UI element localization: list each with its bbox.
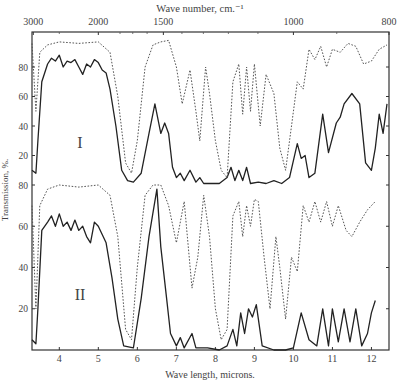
spectrum-curves — [32, 40, 387, 350]
y-tick-label: 80 — [19, 181, 29, 191]
x-tick-label: 5 — [96, 353, 101, 364]
y-tick-label: 40 — [19, 263, 29, 273]
y-tick-label: 40 — [19, 122, 29, 132]
y-tick-label: 20 — [19, 151, 29, 161]
x-tick-label: 7 — [174, 353, 179, 364]
top-tick-label: 1500 — [153, 16, 173, 27]
plot-border — [32, 32, 389, 350]
panel-label-II: II — [75, 286, 86, 303]
top-tick-label: 2000 — [88, 16, 108, 27]
x-tick-label: 10 — [288, 353, 298, 364]
x-tick-label: 8 — [213, 353, 218, 364]
x-tick-label: 9 — [252, 353, 257, 364]
x-axis-title: Wave length, microns. — [165, 369, 255, 380]
x-tick-label: 11 — [328, 353, 338, 364]
plot-frame — [32, 32, 389, 350]
y-axis-title: Transmission, %. — [0, 159, 10, 221]
x-tick-label: 6 — [135, 353, 140, 364]
top-axis-title: Wave number, cm.⁻¹ — [156, 3, 243, 14]
y-tick-label: 20 — [19, 304, 29, 314]
y-axis-transmission: 2040608020406080 — [19, 63, 390, 315]
top-tick-label: 1000 — [283, 16, 303, 27]
top-tick-label: 800 — [382, 16, 397, 27]
x-tick-label: 12 — [366, 353, 376, 364]
curve-I-dotted — [32, 40, 387, 177]
curve-I-solid — [32, 55, 387, 183]
y-tick-label: 80 — [19, 63, 29, 73]
ir-spectrum-chart: 3000200015001000800 456789101112 2040608… — [0, 0, 398, 382]
y-tick-label: 60 — [19, 92, 29, 102]
x-tick-label: 4 — [57, 353, 62, 364]
y-tick-label: 60 — [19, 222, 29, 232]
top-tick-label: 3000 — [23, 16, 43, 27]
panel-label-I: I — [77, 134, 82, 151]
curve-II-solid — [32, 189, 375, 350]
